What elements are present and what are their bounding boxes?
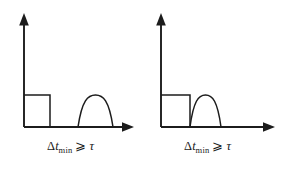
- caption-relation-symbol: ⩾: [72, 138, 88, 153]
- caption-subscript: min: [59, 145, 73, 155]
- caption-delta-symbol: Δ: [47, 139, 55, 153]
- rectangular-pulse-left: [24, 95, 50, 127]
- caption-tau-symbol: τ: [88, 139, 93, 153]
- panel-left-caption: Δtmin⩾τ: [0, 139, 141, 153]
- panel-left: Δtmin⩾τ: [0, 0, 141, 170]
- dome-pulse-right: [190, 95, 221, 127]
- caption-delta-symbol: Δ: [184, 139, 192, 153]
- y-axis-arrowhead-left: [19, 13, 29, 26]
- caption-tau-symbol: τ: [225, 139, 230, 153]
- rectangular-pulse-right: [161, 95, 190, 127]
- panel-right: Δtmin⩾τ: [141, 0, 282, 170]
- caption-relation-symbol: ⩾: [209, 138, 225, 153]
- panel-left-plot: [0, 0, 141, 140]
- panel-right-plot: [141, 0, 282, 140]
- x-axis-arrowhead-right: [263, 122, 275, 131]
- caption-subscript: min: [196, 145, 210, 155]
- panel-right-caption: Δtmin⩾τ: [137, 139, 278, 153]
- figure-container: Δtmin⩾τ Δtmin⩾τ: [0, 0, 282, 170]
- dome-pulse-left: [78, 95, 113, 127]
- y-axis-arrowhead-right: [156, 13, 166, 26]
- x-axis-arrowhead-left: [122, 122, 134, 131]
